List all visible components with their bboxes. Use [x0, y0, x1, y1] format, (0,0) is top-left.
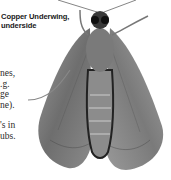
text-line: .g. [0, 79, 16, 90]
caption-line-1: Copper Underwing, [1, 12, 69, 21]
text-line: ge [0, 89, 16, 100]
text-line: nes, [0, 68, 16, 79]
text-line: 's in [0, 120, 16, 131]
body-text: nes, .g. ge ne). 's in ubs. [0, 68, 16, 142]
caption-line-2: underside [1, 21, 69, 30]
text-line: ubs. [0, 131, 16, 142]
text-line: ne). [0, 100, 16, 111]
figure-caption: Copper Underwing, underside [1, 12, 69, 30]
